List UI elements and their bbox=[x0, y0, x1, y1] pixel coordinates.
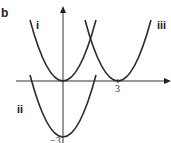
parabola-diagram bbox=[0, 0, 171, 143]
x-axis-arrow-icon bbox=[164, 78, 171, 84]
y-axis-arrow-icon bbox=[60, 6, 66, 13]
y-tick-label: −3 bbox=[50, 136, 61, 143]
curve-label-iii: iii bbox=[157, 20, 166, 31]
x-tick-label: 3 bbox=[115, 84, 120, 94]
curve-label-ii: ii bbox=[17, 104, 23, 115]
panel-label: b bbox=[1, 7, 8, 19]
curve-label-i: i bbox=[36, 20, 39, 31]
curve-iii bbox=[85, 20, 151, 81]
